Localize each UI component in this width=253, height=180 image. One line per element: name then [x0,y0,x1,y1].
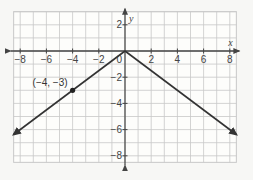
y-tick-label: −4 [111,98,123,109]
x-tick-label: −8 [14,54,26,65]
x-tick-label: 4 [175,54,181,65]
point-label: (−4, −3) [33,77,68,88]
x-tick-label: −4 [67,54,79,65]
graph: xy−8−6−4−224682−2−4−6−80 (−4, −3) [0,0,253,180]
point-marker [70,88,75,93]
x-tick-label: 6 [201,54,207,65]
y-tick-label: 2 [116,19,122,30]
y-tick-label: −6 [111,124,123,135]
x-tick-label: −6 [41,54,53,65]
y-tick-label: −8 [111,150,123,161]
y-axis-label: y [128,13,134,24]
x-tick-label: 2 [148,54,154,65]
x-axis-label: x [227,37,233,48]
x-tick-label: 8 [227,54,233,65]
y-tick-label: −2 [111,72,123,83]
x-tick-label: −2 [93,54,105,65]
